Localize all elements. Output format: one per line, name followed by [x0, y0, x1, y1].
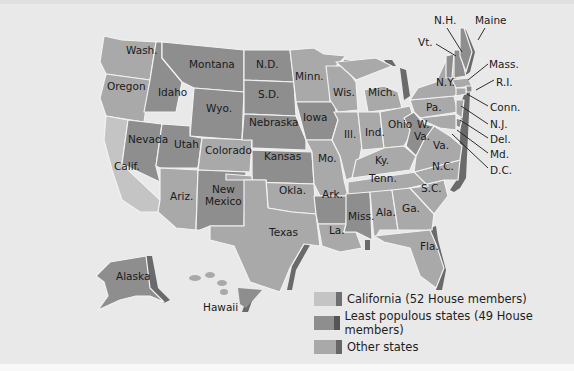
state-new-jersey[interactable]	[456, 100, 464, 118]
svg-text:Ky.: Ky.	[375, 154, 389, 166]
svg-text:Va.: Va.	[414, 130, 430, 142]
svg-text:Okla.: Okla.	[279, 184, 306, 196]
svg-text:Ind.: Ind.	[365, 126, 385, 138]
svg-text:Wyo.: Wyo.	[206, 102, 232, 114]
state-florida[interactable]	[374, 230, 444, 288]
svg-text:Ark.: Ark.	[322, 188, 343, 200]
map-legend: California (52 House members) Least popu…	[314, 287, 574, 359]
svg-text:Ga.: Ga.	[402, 202, 420, 214]
svg-text:Ariz.: Ariz.	[170, 190, 193, 202]
svg-text:Mo.: Mo.	[318, 152, 337, 164]
svg-text:La.: La.	[329, 224, 345, 236]
svg-text:Mich.: Mich.	[368, 86, 396, 98]
svg-text:Wash.: Wash.	[126, 44, 158, 56]
state-washington[interactable]	[100, 36, 156, 80]
svg-text:R.I.: R.I.	[496, 76, 513, 88]
svg-text:Nebraska: Nebraska	[249, 116, 299, 128]
svg-text:Alaska: Alaska	[116, 270, 150, 282]
svg-text:New: New	[212, 183, 235, 195]
svg-text:Miss.: Miss.	[348, 210, 374, 222]
swatch-least-populous	[314, 316, 340, 330]
svg-text:Ill.: Ill.	[344, 128, 356, 140]
state-connecticut[interactable]	[456, 88, 466, 96]
swatch-other	[314, 340, 342, 354]
svg-text:Utah: Utah	[174, 138, 199, 150]
state-arkansas[interactable]	[314, 196, 348, 224]
svg-text:Minn.: Minn.	[295, 70, 324, 82]
svg-text:Pa.: Pa.	[426, 101, 442, 113]
svg-text:N.D.: N.D.	[256, 58, 279, 70]
svg-text:Oregon: Oregon	[107, 80, 146, 92]
svg-text:Conn.: Conn.	[490, 101, 520, 113]
svg-text:N.C.: N.C.	[432, 160, 454, 172]
svg-text:S.C.: S.C.	[421, 182, 442, 194]
legend-item-least-populous: Least populous states (49 House members)	[314, 311, 574, 335]
svg-text:Mass.: Mass.	[489, 58, 519, 70]
legend-label: Least populous states (49 House members)	[345, 309, 574, 337]
svg-text:Tenn.: Tenn.	[368, 172, 397, 184]
svg-text:Montana: Montana	[189, 58, 235, 70]
svg-text:N.J.: N.J.	[490, 118, 508, 130]
swatch-california	[314, 292, 342, 306]
svg-text:Mexico: Mexico	[205, 195, 242, 207]
legend-item-california: California (52 House members)	[314, 287, 574, 311]
legend-item-other: Other states	[314, 335, 574, 359]
svg-text:Calif.: Calif.	[114, 160, 140, 172]
svg-text:W.: W.	[417, 118, 430, 130]
svg-text:Kansas: Kansas	[264, 150, 301, 162]
svg-text:Md.: Md.	[490, 148, 509, 160]
svg-text:Texas: Texas	[268, 226, 298, 238]
svg-text:Fla.: Fla.	[420, 240, 439, 252]
page-edge	[0, 364, 574, 371]
svg-text:Iowa: Iowa	[303, 111, 328, 123]
svg-text:Idaho: Idaho	[158, 86, 187, 98]
svg-text:Colorado: Colorado	[205, 144, 252, 156]
svg-text:Nevada: Nevada	[128, 133, 168, 145]
svg-text:Ohio: Ohio	[388, 118, 412, 130]
legend-label: Other states	[347, 340, 418, 354]
state-vermont[interactable]	[446, 54, 454, 78]
svg-text:Vt.: Vt.	[418, 36, 433, 48]
state-wyoming[interactable]	[190, 88, 244, 140]
svg-text:Ala.: Ala.	[376, 206, 396, 218]
svg-text:Maine: Maine	[475, 14, 507, 26]
svg-text:N.Y.: N.Y.	[436, 76, 455, 88]
svg-text:Wis.: Wis.	[333, 86, 355, 98]
svg-text:Va.: Va.	[433, 139, 449, 151]
svg-text:Del.: Del.	[490, 133, 511, 145]
legend-label: California (52 House members)	[347, 292, 527, 306]
svg-text:N.H.: N.H.	[434, 14, 456, 26]
svg-text:S.D.: S.D.	[258, 88, 279, 100]
svg-text:Hawaii: Hawaii	[203, 301, 238, 313]
state-rhode-island[interactable]	[466, 86, 472, 92]
svg-text:D.C.: D.C.	[490, 164, 512, 176]
